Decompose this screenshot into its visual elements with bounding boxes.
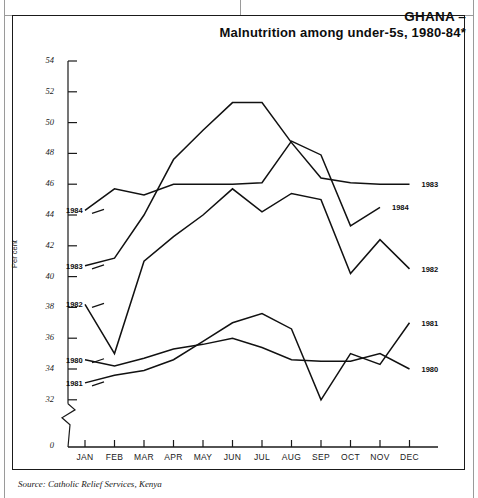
x-tick-label: DEC [390,452,430,462]
series-label-right-1984: 1984 [392,203,409,212]
page-rule-left [4,0,5,498]
y-tick-label: 32 [30,394,54,404]
y-tick-label: 40 [30,271,54,281]
y-tick-label: 46 [30,178,54,188]
y-tick-label: 48 [30,147,54,157]
series-label-left-1984: 1984 [66,206,83,215]
series-label-left-1981: 1981 [66,379,83,388]
source-caption: Source: Catholic Relief Services, Kenya [18,479,162,489]
y-tick-label: 44 [30,209,54,219]
series-label-right-1982: 1982 [422,265,439,274]
series-label-right-1983: 1983 [422,180,439,189]
y-tick-label: 38 [30,301,54,311]
series-label-right-1981: 1981 [422,319,439,328]
page-rule-right [473,0,474,498]
y-tick-label: 52 [30,86,54,96]
y-tick-label: 42 [30,240,54,250]
y-tick-label: 54 [30,55,54,65]
y-tick-label-zero: 0 [30,440,54,450]
chart-title-line1: GHANA – [219,8,466,25]
y-tick-label: 34 [30,363,54,373]
series-label-left-1983: 1983 [66,262,83,271]
series-label-left-1982: 1982 [66,300,83,309]
series-label-right-1980: 1980 [422,365,439,374]
chart-title-line2: Malnutrition among under-5s, 1980-84* [219,25,466,42]
chart-frame [12,15,465,470]
y-tick-label: 36 [30,332,54,342]
chart-page: GHANA – Malnutrition among under-5s, 198… [0,0,478,498]
chart-title: GHANA – Malnutrition among under-5s, 198… [219,8,466,42]
y-tick-label: 50 [30,117,54,127]
y-axis-title: Per cent [10,240,19,268]
series-label-left-1980: 1980 [66,356,83,365]
